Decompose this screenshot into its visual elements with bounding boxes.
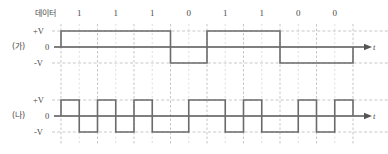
time-axis-arrowhead <box>364 113 372 120</box>
waveform-canvas <box>0 0 388 154</box>
bit-label: 1 <box>134 9 171 18</box>
time-axis-label-top: t <box>373 43 375 52</box>
bit-label: 1 <box>207 9 244 18</box>
axis-tick-plus-v-bottom: +V <box>33 96 44 105</box>
axis-tick-plus-v-top: +V <box>33 27 44 36</box>
time-axis-label-bottom: t <box>373 112 375 121</box>
time-axis-arrowhead <box>364 44 372 51</box>
bit-label: 0 <box>280 9 317 18</box>
axis-tick-zero-bottom: 0 <box>45 112 49 121</box>
bit-label: 0 <box>317 9 354 18</box>
bit-label: 0 <box>171 9 208 18</box>
row-label-na: (나) <box>12 112 25 120</box>
row-label-ga: (가) <box>12 43 25 51</box>
signal-encoding-figure: 데이터 11101100 (가) +V 0 -V t (나) +V 0 -V t <box>0 0 388 154</box>
axis-tick-zero-top: 0 <box>45 43 49 52</box>
bit-label: 1 <box>98 9 135 18</box>
bit-label: 1 <box>61 9 98 18</box>
axis-tick-minus-v-bottom: -V <box>34 128 43 137</box>
axis-tick-minus-v-top: -V <box>34 59 43 68</box>
data-row-label: 데이터 <box>35 10 56 18</box>
bit-label: 1 <box>244 9 281 18</box>
